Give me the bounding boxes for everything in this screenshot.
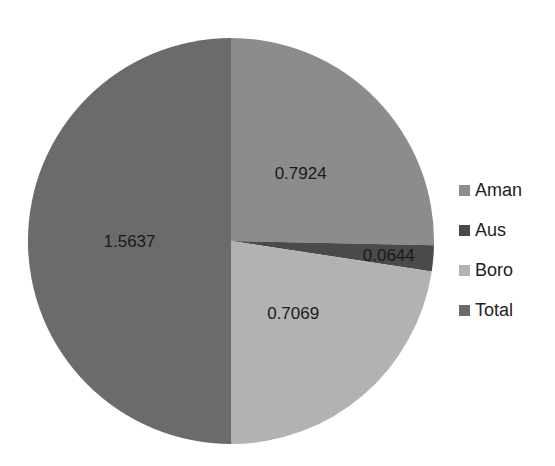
data-label-aus: 0.0644 bbox=[363, 246, 415, 265]
legend-label: Aman bbox=[475, 180, 522, 201]
pie-slice-aman bbox=[231, 38, 434, 245]
legend-item-total: Total bbox=[459, 290, 522, 330]
legend-swatch-total bbox=[459, 305, 470, 316]
legend-swatch-aus bbox=[459, 225, 470, 236]
legend-label: Boro bbox=[475, 260, 513, 281]
legend-item-boro: Boro bbox=[459, 250, 522, 290]
legend-swatch-boro bbox=[459, 265, 470, 276]
legend-label: Aus bbox=[475, 220, 506, 241]
legend-swatch-aman bbox=[459, 185, 470, 196]
data-label-boro: 0.7069 bbox=[267, 304, 319, 323]
data-label-total: 1.5637 bbox=[104, 232, 156, 251]
data-label-aman: 0.7924 bbox=[275, 164, 327, 183]
legend-label: Total bbox=[475, 300, 513, 321]
legend: Aman Aus Boro Total bbox=[459, 170, 522, 330]
pie-slice-boro bbox=[231, 241, 432, 444]
legend-item-aman: Aman bbox=[459, 170, 522, 210]
legend-item-aus: Aus bbox=[459, 210, 522, 250]
